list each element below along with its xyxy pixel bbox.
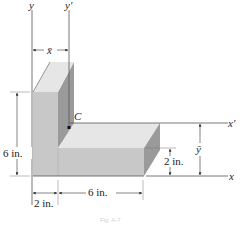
bottom-right-label: 6 in. bbox=[88, 186, 108, 198]
y-axis-label: y bbox=[28, 0, 34, 11]
x-axis-label: x bbox=[228, 170, 234, 182]
y-prime-axis-label: y′ bbox=[64, 0, 73, 11]
bottom-left-label: 2 in. bbox=[34, 197, 54, 209]
x-prime-axis-label: x′ bbox=[227, 117, 236, 129]
figure-caption: Fig. A-7 bbox=[100, 217, 121, 223]
thickness-label: 2 in. bbox=[164, 155, 184, 167]
l-shape-diagram: y y′ C x′ x x̄ ȳ 2 in. 6 in. 2 in. 6 bbox=[0, 0, 245, 225]
horizontal-block-front-face bbox=[58, 148, 144, 176]
vertical-block-front-face bbox=[33, 92, 58, 176]
horizontal-block-top-face bbox=[58, 123, 160, 148]
centroid-label: C bbox=[74, 110, 82, 122]
height-label: 6 in. bbox=[3, 147, 23, 159]
centroid-point bbox=[68, 126, 71, 129]
x-bar-label: x̄ bbox=[46, 44, 52, 56]
